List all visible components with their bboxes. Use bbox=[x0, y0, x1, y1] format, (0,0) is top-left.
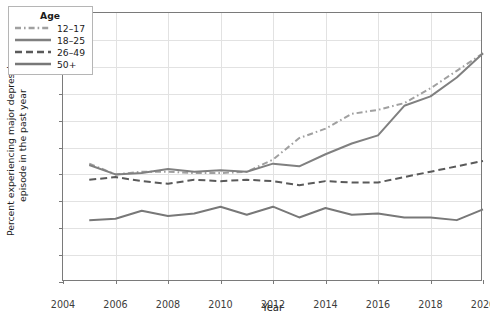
legend-title: Age bbox=[15, 10, 85, 21]
x-tick-label: 2018 bbox=[411, 299, 451, 310]
x-tick-label: 2008 bbox=[148, 299, 188, 310]
series-lines bbox=[63, 13, 483, 282]
legend-items: 12–1718–2526–4950+ bbox=[15, 22, 85, 70]
legend-line-swatch bbox=[15, 35, 51, 45]
y-axis-title-line-1: Percent experiencing major depressive bbox=[6, 54, 18, 235]
series-line-50+ bbox=[89, 207, 483, 220]
legend-item-label: 26–49 bbox=[57, 47, 85, 58]
x-tick-label: 2010 bbox=[201, 299, 241, 310]
legend: Age 12–1718–2526–4950+ bbox=[8, 6, 93, 75]
x-tick-label: 2006 bbox=[96, 299, 136, 310]
x-tick-label: 2014 bbox=[306, 299, 346, 310]
y-axis-title-line-2: episode in the past year bbox=[17, 54, 29, 235]
plot-area: 0246810121416182020042006200820102012201… bbox=[62, 12, 482, 281]
legend-item: 18–25 bbox=[15, 34, 85, 46]
legend-item-label: 18–25 bbox=[57, 35, 85, 46]
legend-item-label: 12–17 bbox=[57, 23, 85, 34]
x-tick-label: 2012 bbox=[253, 299, 293, 310]
legend-line-swatch bbox=[15, 47, 51, 57]
legend-line-swatch bbox=[15, 59, 51, 69]
legend-line-swatch bbox=[15, 23, 51, 33]
legend-item: 12–17 bbox=[15, 22, 85, 34]
legend-item: 26–49 bbox=[15, 46, 85, 58]
series-line-12-17 bbox=[89, 53, 483, 174]
legend-item: 50+ bbox=[15, 58, 85, 70]
x-tick-label: 2020 bbox=[463, 299, 490, 310]
x-tick-mark bbox=[483, 280, 484, 284]
x-tick-label: 2016 bbox=[358, 299, 398, 310]
depression-line-chart: Percent experiencing major depressive ep… bbox=[0, 0, 490, 324]
x-tick-label: 2004 bbox=[43, 299, 83, 310]
legend-item-label: 50+ bbox=[57, 59, 76, 70]
series-line-18-25 bbox=[89, 53, 483, 174]
